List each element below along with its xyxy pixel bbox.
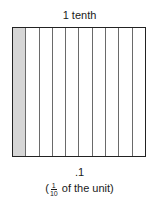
tenth-column (40, 28, 53, 156)
tenth-column (93, 28, 106, 156)
tenth-column (53, 28, 66, 156)
tenth-column (133, 28, 145, 156)
tenth-column (26, 28, 39, 156)
shaded-tenth-column (13, 28, 26, 156)
tenth-column (106, 28, 119, 156)
fraction-denominator: 10 (50, 190, 58, 197)
tenth-column (79, 28, 92, 156)
diagram-title: 1 tenth (0, 9, 159, 21)
tenth-column (66, 28, 79, 156)
tenth-column (119, 28, 132, 156)
fraction-numerator: 1 (51, 182, 57, 190)
open-paren: ( (45, 182, 49, 194)
tenths-grid (12, 27, 146, 157)
decimal-label: .1 (0, 166, 159, 178)
fraction-label: (110 of the unit) (0, 181, 159, 197)
fraction: 110 (50, 182, 58, 197)
fraction-suffix: of the unit) (59, 182, 114, 194)
